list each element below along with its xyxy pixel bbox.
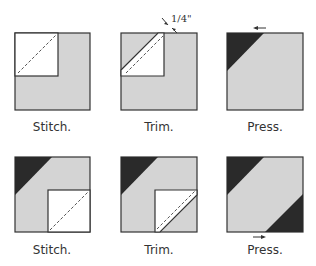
- row1-press-block: [227, 26, 303, 110]
- row1-trim-label: Trim.: [119, 120, 199, 134]
- row1-trim-block: 1/4": [121, 13, 197, 110]
- quarter-inch-label: 1/4": [171, 13, 192, 24]
- row2-stitch-block: [15, 157, 90, 232]
- row1-press-label: Press.: [225, 120, 305, 134]
- row2-stitch-label: Stitch.: [12, 243, 92, 257]
- row2-trim-label: Trim.: [119, 243, 199, 257]
- row2-trim-block: [121, 157, 197, 232]
- row2-press-label: Press.: [225, 243, 305, 257]
- row1-stitch-block: [15, 33, 90, 110]
- row1-stitch-label: Stitch.: [12, 120, 92, 134]
- row2-press-block: [227, 157, 303, 239]
